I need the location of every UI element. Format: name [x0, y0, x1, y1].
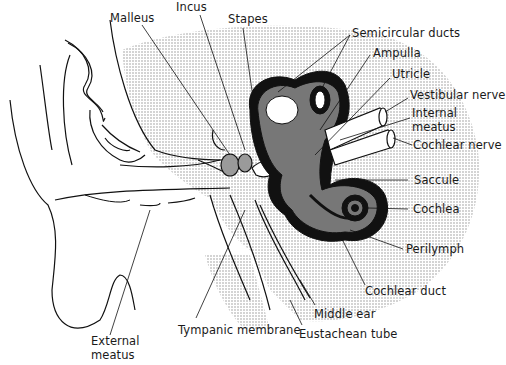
label-internal-meatus-line2: meatus [412, 121, 456, 134]
label-saccule: Saccule [414, 174, 459, 187]
label-internal-meatus-line1: Internal [412, 107, 457, 120]
pinna-outline [10, 100, 135, 328]
label-vestibular-nerve: Vestibular nerve [410, 89, 506, 102]
label-stapes: Stapes [228, 13, 268, 26]
label-external-meatus-line1: External [91, 335, 140, 348]
label-eustachean-tube: Eustachean tube [299, 328, 397, 341]
incus-shape [238, 154, 252, 172]
label-external-meatus-line2: meatus [91, 349, 135, 362]
label-cochlear-duct: Cochlear duct [365, 285, 446, 298]
label-cochlear-nerve: Cochlear nerve [413, 139, 502, 152]
malleus-shape [221, 154, 239, 176]
label-malleus: Malleus [110, 12, 154, 25]
label-incus: Incus [176, 1, 207, 14]
label-middle-ear: Middle ear [314, 308, 376, 321]
label-tympanic-membrane: Tympanic membrane [178, 324, 301, 337]
label-utricle: Utricle [392, 68, 430, 81]
label-ampulla: Ampulla [373, 47, 421, 60]
label-cochlea: Cochlea [413, 203, 460, 216]
label-semicircular-ducts: Semicircular ducts [352, 27, 460, 40]
label-perilymph: Perilymph [406, 243, 464, 256]
